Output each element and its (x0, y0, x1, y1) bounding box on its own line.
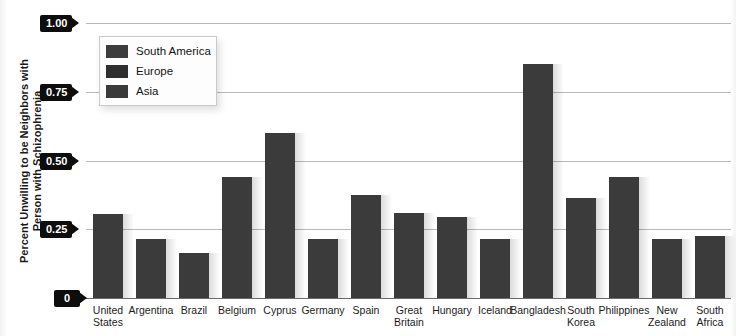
bar-shadow (467, 217, 478, 298)
y-axis-tick-label: 0.50 (40, 153, 72, 170)
bar-shadow (639, 177, 650, 298)
x-axis-tick-label-line: Great (396, 304, 422, 316)
bar[interactable] (394, 213, 424, 298)
chart-container: Percent Unwilling to be Neighbors with P… (0, 0, 736, 336)
x-axis-tick-label-line: South (696, 304, 723, 316)
bar-shadow (424, 213, 435, 298)
bar-shadow (166, 239, 177, 298)
bar-shadow (295, 133, 306, 298)
legend-label-south-america: South America (136, 45, 211, 57)
bar[interactable] (523, 64, 553, 298)
bar[interactable] (136, 239, 166, 298)
bar-shadow (252, 177, 263, 298)
bar[interactable] (179, 253, 209, 298)
left-edge-band (0, 0, 8, 336)
bar-shadow (209, 253, 220, 298)
gridline (86, 23, 731, 24)
bar[interactable] (480, 239, 510, 298)
bar[interactable] (308, 239, 338, 298)
chart-legend: South America Europe Asia (99, 36, 217, 106)
x-axis-tick-label: SouthAfrica (685, 304, 735, 328)
legend-label-asia: Asia (136, 85, 158, 97)
bar-shadow (510, 239, 521, 298)
x-axis-tick-label-line: Korea (567, 316, 595, 328)
bar[interactable] (566, 198, 596, 298)
legend-item: Asia (106, 82, 210, 100)
y-axis-tick-label: 0.25 (40, 221, 72, 238)
x-axis-tick-label-line: New (656, 304, 677, 316)
legend-label-europe: Europe (136, 65, 173, 77)
bar-shadow (596, 198, 607, 298)
legend-swatch-europe (106, 65, 128, 78)
bar[interactable] (652, 239, 682, 298)
x-axis-tick-label-line: Britain (394, 316, 424, 328)
x-axis-tick-label-line: United (93, 304, 123, 316)
legend-item: South America (106, 42, 210, 60)
y-axis-label-line-1: Percent Unwilling to be Neighbors with (18, 59, 30, 263)
bar[interactable] (265, 133, 295, 298)
bar[interactable] (93, 214, 123, 298)
bar-shadow (553, 64, 564, 298)
bar-shadow (682, 239, 693, 298)
y-axis-tick-label: 0.75 (40, 84, 72, 101)
x-axis-tick-label-line: Africa (697, 316, 724, 328)
x-axis-baseline (86, 298, 731, 299)
gridline (86, 161, 731, 162)
y-axis-tick-label: 1.00 (40, 15, 72, 32)
y-axis-tick-label: 0 (54, 290, 80, 307)
bar[interactable] (351, 195, 381, 298)
bar-shadow (123, 214, 134, 298)
legend-swatch-asia (106, 85, 128, 98)
bar-shadow (338, 239, 349, 298)
bar[interactable] (609, 177, 639, 298)
x-axis-tick-label-line: States (93, 316, 123, 328)
x-axis-tick-label-line: Zealand (648, 316, 686, 328)
x-axis-tick-label-line: South (567, 304, 594, 316)
bar[interactable] (437, 217, 467, 298)
bar-shadow (725, 236, 736, 298)
bar[interactable] (222, 177, 252, 298)
bar[interactable] (695, 236, 725, 298)
bar-shadow (381, 195, 392, 298)
legend-item: Europe (106, 62, 210, 80)
legend-swatch-south-america (106, 45, 128, 58)
